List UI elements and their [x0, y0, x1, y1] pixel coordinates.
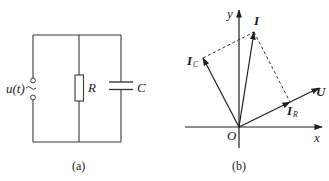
phasor-u-label: U: [316, 84, 326, 99]
phasor-ir-label: I: [286, 103, 293, 118]
phasor-diagram: x y O I I C I R U (b): [185, 6, 326, 173]
dashed-i-to-ir: [254, 32, 290, 102]
phasor-ir-arrow: [239, 102, 290, 127]
x-axis-label: x: [313, 130, 320, 145]
phasor-u-arrow: [290, 88, 319, 102]
circuit-diagram: u(t) R C (a): [6, 35, 146, 173]
origin-label: O: [227, 128, 237, 143]
resistor-label: R: [87, 80, 96, 95]
caption-a: (a): [72, 159, 85, 173]
dashed-ic-to-i: [203, 32, 254, 58]
y-axis-label: y: [225, 6, 233, 21]
caption-b: (b): [232, 159, 246, 173]
capacitor-label: C: [137, 80, 146, 95]
source-label: u(t): [6, 81, 25, 96]
resistor-icon: [75, 75, 84, 101]
source-terminal-top: [31, 78, 36, 83]
phasor-ic-label: I: [186, 53, 193, 68]
phasor-ic-subscript: C: [193, 60, 199, 69]
phasor-i-label: I: [253, 13, 260, 28]
phasor-i-arrow: [239, 32, 254, 127]
phasor-ir-subscript: R: [292, 110, 298, 119]
ac-source-icon: [26, 87, 36, 90]
figure-canvas: u(t) R C (a) x y O I I C I R: [0, 0, 329, 181]
phasor-ic-arrow: [203, 58, 239, 127]
source-terminal-bottom: [31, 95, 36, 100]
